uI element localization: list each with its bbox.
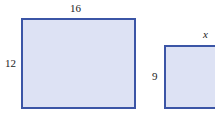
large-rectangle-height-label: 12 — [5, 58, 16, 69]
large-rectangle-width-label: 16 — [70, 3, 81, 14]
small-rectangle — [164, 45, 215, 109]
small-rectangle-height-label: 9 — [152, 71, 158, 82]
large-rectangle — [21, 18, 136, 109]
small-rectangle-width-label: x — [203, 29, 208, 40]
